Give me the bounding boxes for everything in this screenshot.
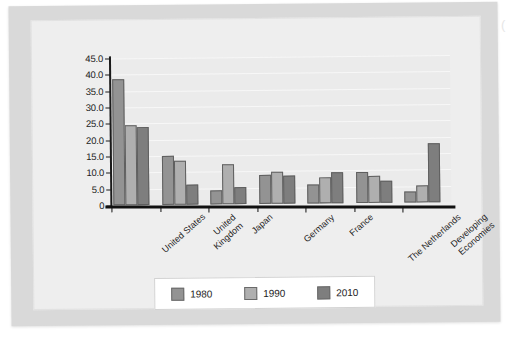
x-tick-label: United Kingdom (204, 212, 245, 252)
bar-1990-1[interactable] (174, 160, 186, 205)
y-tick-label: 20.0 (86, 135, 104, 146)
x-tick-label: United States (160, 212, 208, 256)
page-surface: 45.040.035.030.025.020.015.010.05.00 Uni… (31, 16, 484, 310)
bar-1990-3[interactable] (271, 172, 283, 204)
y-tick-label: 15.0 (86, 151, 104, 162)
y-tick-label: 25.0 (86, 118, 104, 129)
y-tick-label: 35.0 (86, 86, 104, 97)
x-axis-ticks (42, 19, 472, 23)
bar-group (209, 57, 246, 204)
legend-swatch-icon (171, 287, 184, 300)
bar-2010-4[interactable] (331, 172, 343, 203)
bar-1990-4[interactable] (319, 177, 331, 203)
legend-label: 1990 (263, 287, 285, 298)
y-tick-label: 10.0 (86, 167, 104, 178)
x-tick-label: France (348, 212, 376, 239)
y-tick-label: 40.0 (85, 69, 103, 80)
legend-label: 2010 (336, 287, 358, 298)
bar-1980-5[interactable] (356, 172, 368, 203)
bar-1990-2[interactable] (222, 164, 234, 204)
chart-legend: 198019902010 (154, 276, 375, 310)
y-tick-label: 45.0 (85, 53, 103, 64)
bar-chart: 45.040.035.030.025.020.015.010.05.00 Uni… (42, 19, 475, 313)
bar-group (112, 58, 149, 205)
legend-item-1990[interactable]: 1990 (244, 286, 285, 299)
page-edge-mark: ( (501, 16, 515, 56)
bar-1980-2[interactable] (210, 191, 222, 205)
bar-1980-1[interactable] (161, 156, 173, 205)
x-tick-label: Germany (301, 212, 336, 245)
bar-group (403, 55, 440, 202)
y-tick-label: 5.0 (92, 184, 105, 195)
bar-2010-6[interactable] (428, 143, 441, 202)
legend-swatch-icon (317, 286, 330, 299)
bar-1980-0[interactable] (112, 79, 125, 205)
bar-1980-4[interactable] (307, 184, 319, 203)
bars-layer (42, 19, 472, 23)
legend-swatch-icon (244, 286, 257, 299)
bar-1980-6[interactable] (405, 191, 417, 202)
bar-group (161, 58, 198, 205)
bar-1990-0[interactable] (125, 125, 138, 205)
bar-2010-5[interactable] (380, 181, 392, 203)
bar-group (355, 56, 392, 203)
bar-2010-1[interactable] (186, 184, 198, 204)
bar-1980-3[interactable] (259, 175, 271, 204)
scanned-page: 45.040.035.030.025.020.015.010.05.00 Uni… (8, 2, 500, 327)
x-tick-label: Japan (250, 212, 276, 237)
y-axis-labels: 45.040.035.030.025.020.015.010.05.00 (42, 56, 110, 208)
bar-2010-0[interactable] (137, 127, 150, 205)
bar-group (258, 57, 295, 204)
bar-1990-6[interactable] (417, 185, 429, 202)
legend-item-1980[interactable]: 1980 (171, 287, 212, 300)
bar-2010-3[interactable] (283, 176, 295, 204)
y-tick-label: 30.0 (86, 102, 104, 113)
bar-group (306, 56, 343, 203)
legend-label: 1980 (190, 288, 212, 299)
bar-1990-5[interactable] (368, 176, 380, 203)
bar-2010-2[interactable] (234, 187, 246, 204)
legend-item-2010[interactable]: 2010 (317, 286, 358, 299)
